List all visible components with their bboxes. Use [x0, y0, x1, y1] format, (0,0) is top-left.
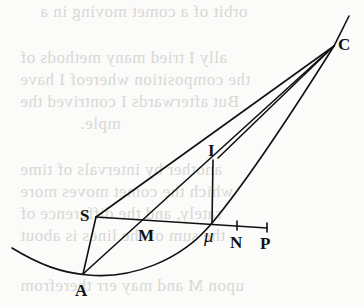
label-P: P [260, 235, 270, 252]
segment-SA [83, 217, 96, 274]
label-I: I [208, 142, 215, 159]
label-S: S [80, 207, 89, 224]
label-A: A [75, 282, 87, 299]
orbit-curve [12, 16, 349, 276]
segment-SP [96, 217, 267, 228]
label-N: N [230, 234, 242, 251]
segment-IC [218, 46, 334, 158]
segment-SC [96, 46, 334, 217]
label-M: M [138, 227, 154, 244]
orbit-diagram [0, 0, 364, 307]
segment-Imu [212, 160, 213, 223]
label-mu: μ [204, 226, 214, 245]
label-C: C [338, 36, 350, 53]
